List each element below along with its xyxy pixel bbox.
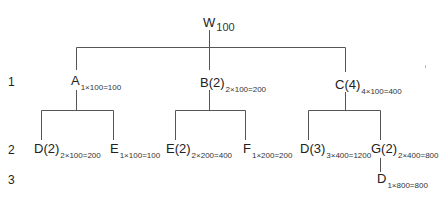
node-value: 2×400=800: [398, 151, 439, 160]
node-b-e: E(2)2×200=400: [166, 142, 232, 157]
node-b-f: F1×200=200: [243, 142, 292, 157]
node-name: C(4): [335, 77, 360, 92]
node-c-g: G(2)2×400=800: [371, 142, 439, 157]
node-a: A1×100=100: [71, 74, 121, 89]
level-label-2: 2: [8, 143, 15, 157]
node-c: C(4)4×100=400: [335, 78, 402, 93]
node-g-d: D1×800=800: [377, 172, 428, 187]
node-name: D: [377, 171, 386, 186]
node-name: F: [243, 141, 251, 156]
node-a-e: E1×100=100: [110, 142, 160, 157]
node-name: D(3): [300, 141, 325, 156]
node-value: 100: [216, 21, 234, 33]
node-value: 4×100=400: [361, 87, 402, 96]
level-label-1: 1: [8, 75, 15, 89]
node-name: A: [71, 73, 80, 88]
node-name: W: [203, 15, 215, 30]
node-value: 1×200=200: [252, 151, 293, 160]
node-a-d: D(2)2×100=200: [34, 142, 101, 157]
node-c-d: D(3)3×400=1200: [300, 142, 371, 157]
node-value: 2×100=200: [226, 85, 267, 94]
node-name: E: [110, 141, 119, 156]
node-value: 2×100=200: [60, 151, 101, 160]
node-value: 3×400=1200: [326, 151, 371, 160]
scan-mark: [425, 65, 426, 68]
node-name: G(2): [371, 141, 397, 156]
node-value: 2×200=400: [192, 151, 233, 160]
node-value: 1×100=100: [81, 83, 122, 92]
node-b: B(2)2×100=200: [200, 76, 266, 91]
node-name: D(2): [34, 141, 59, 156]
node-value: 1×100=100: [120, 151, 161, 160]
node-name: B(2): [200, 75, 225, 90]
node-root-w: W100: [203, 16, 235, 30]
level-label-3: 3: [8, 173, 15, 187]
node-value: 1×800=800: [387, 181, 428, 190]
node-name: E(2): [166, 141, 191, 156]
